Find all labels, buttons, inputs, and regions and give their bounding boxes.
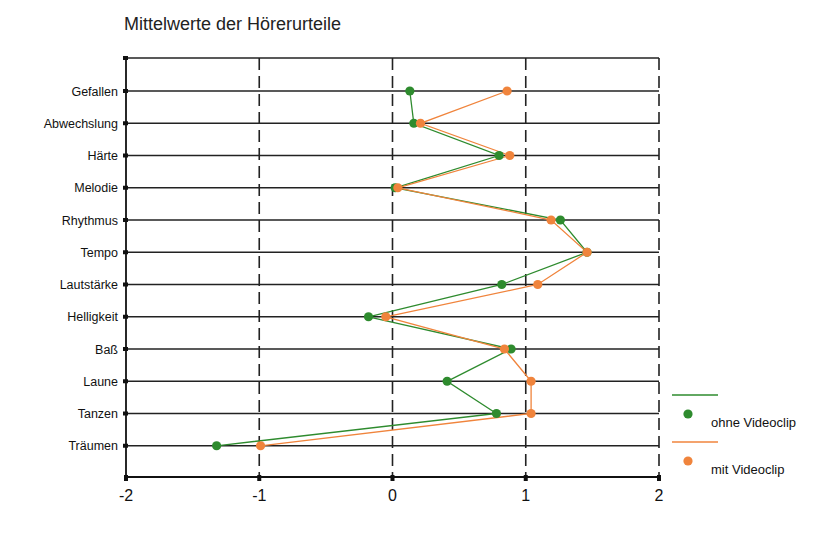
- category-label: Härte: [87, 149, 118, 163]
- data-point: [256, 441, 265, 450]
- category-label: Träumen: [68, 439, 118, 453]
- category-labels: GefallenAbwechslungHärteMelodieRhythmusT…: [44, 85, 119, 454]
- category-label: Abwechslung: [44, 117, 118, 131]
- y-tick-mark: [123, 56, 128, 60]
- category-label: Lautstärke: [60, 278, 118, 292]
- data-point: [492, 409, 501, 418]
- category-label: Laune: [83, 375, 118, 389]
- data-point: [526, 409, 535, 418]
- data-point: [546, 215, 555, 224]
- data-point: [502, 86, 511, 95]
- x-tick-mark: [257, 475, 261, 481]
- data-point: [364, 312, 373, 321]
- data-point: [497, 280, 506, 289]
- x-tick-mark: [657, 475, 661, 481]
- data-point: [533, 280, 542, 289]
- category-label: Baß: [95, 343, 118, 357]
- category-label: Melodie: [74, 181, 118, 195]
- x-tick-label: 2: [655, 487, 664, 504]
- data-point: [500, 344, 509, 353]
- x-tick-label: 1: [521, 487, 530, 504]
- chart-plot: GefallenAbwechslungHärteMelodieRhythmusT…: [0, 0, 832, 543]
- x-tick-label: -1: [252, 487, 266, 504]
- data-point: [416, 119, 425, 128]
- data-point: [495, 151, 504, 160]
- legend-marker: [683, 456, 692, 465]
- legend-label: mit Videoclip: [711, 462, 784, 477]
- x-tick-mark: [524, 475, 528, 481]
- legend-label: ohne Videoclip: [711, 415, 796, 430]
- x-tick-mark: [391, 475, 395, 481]
- category-label: Helligkeit: [67, 310, 118, 324]
- category-label: Gefallen: [71, 85, 118, 99]
- category-label: Rhythmus: [62, 214, 118, 228]
- data-point: [582, 248, 591, 257]
- x-tick-label: -2: [119, 487, 133, 504]
- data-point: [212, 441, 221, 450]
- grid-lines: [126, 58, 659, 477]
- category-label: Tempo: [80, 246, 118, 260]
- data-point: [526, 377, 535, 386]
- data-point: [556, 215, 565, 224]
- data-point: [393, 183, 402, 192]
- data-point: [405, 86, 414, 95]
- legend-marker: [683, 409, 692, 418]
- series-line: [261, 91, 587, 446]
- x-tick-labels: -2-1012: [119, 487, 664, 504]
- data-point: [443, 377, 452, 386]
- data-point: [381, 312, 390, 321]
- legend: ohne Videoclipmit Videoclip: [672, 395, 796, 477]
- data-series: [212, 86, 592, 450]
- category-label: Tanzen: [78, 407, 118, 421]
- data-point: [505, 151, 514, 160]
- x-tick-label: 0: [388, 487, 397, 504]
